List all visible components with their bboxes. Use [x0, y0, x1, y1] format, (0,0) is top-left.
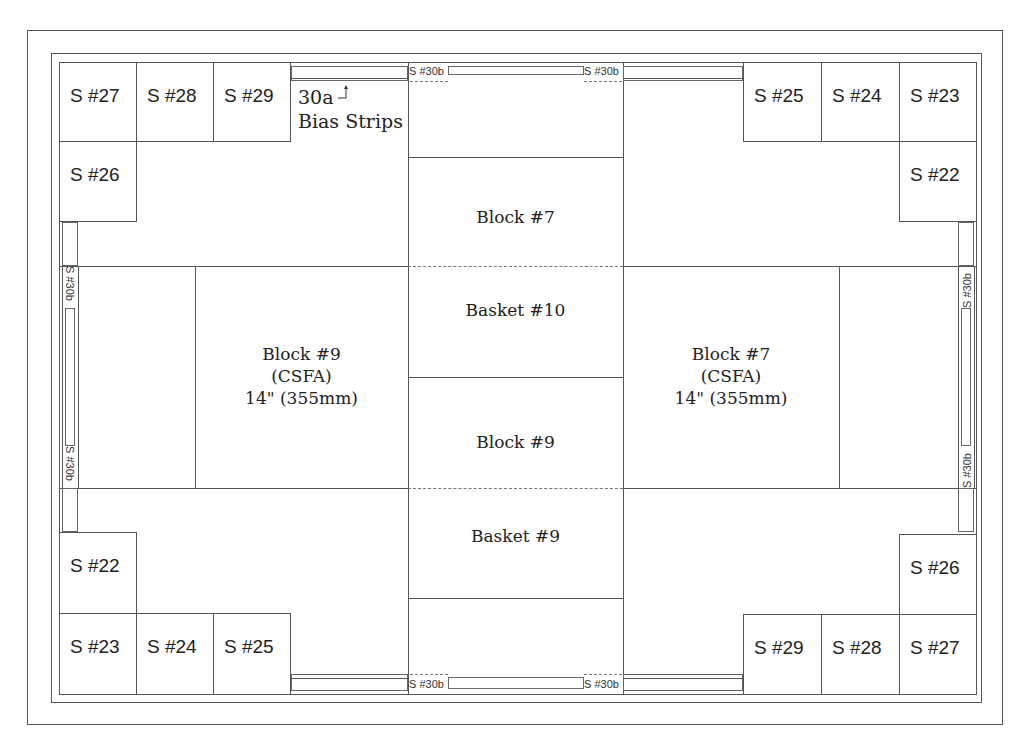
center-block-label-4: Basket #9	[408, 525, 623, 547]
mid-band-bottom-center-dashed	[408, 488, 623, 489]
square-label: S #25	[754, 85, 804, 107]
left-big-block-label: Block #9 (CSFA) 14" (355mm)	[195, 343, 408, 409]
mid-band-bottom-left	[59, 488, 408, 489]
right-strip-top-segment	[958, 222, 974, 266]
square-top-right-below: S #22	[899, 141, 977, 222]
square-label: S #29	[754, 637, 804, 659]
strip-label-bottom-2: S #30b	[584, 678, 619, 690]
bottom-left-strip-inner-line	[291, 678, 408, 679]
center-block-label-1: Block #7	[408, 206, 623, 228]
strip-label-left-2: S #30b	[64, 446, 76, 481]
square-bottom-left-3: S #25	[213, 613, 291, 695]
square-bottom-right-2: S #28	[821, 614, 900, 695]
annotation-text: Bias Strips	[298, 110, 403, 132]
square-label: S #27	[910, 637, 960, 659]
square-bottom-right-3: S #27	[899, 614, 977, 695]
left-strip-bottom-segment	[62, 488, 78, 532]
square-top-right-1: S #25	[743, 62, 822, 142]
square-top-left-2: S #28	[136, 62, 214, 142]
square-top-right-3: S #23	[899, 62, 977, 142]
bottom-right-strip-outer	[623, 674, 743, 691]
left-big-block-title: Block #9	[195, 343, 408, 365]
square-top-left-3: S #29	[213, 62, 291, 142]
left-big-block-subtitle: (CSFA)	[195, 365, 408, 387]
mid-band-top-center-dashed	[408, 266, 623, 267]
center-line-1	[408, 157, 623, 158]
square-bottom-left-2: S #24	[136, 613, 214, 695]
top-center-dash-left	[410, 81, 448, 82]
square-label: S #24	[147, 636, 197, 658]
strip-label-top-1: S #30b	[409, 65, 444, 77]
left-strip-top-segment	[62, 222, 78, 266]
top-left-strip-inner-line	[291, 78, 408, 79]
annotation-arrow-icon	[338, 84, 350, 98]
right-strip-outer-line	[974, 266, 975, 488]
right-big-block-size: 14" (355mm)	[623, 387, 839, 409]
bottom-left-strip-outer	[291, 674, 408, 691]
right-big-block-edge	[839, 266, 840, 488]
left-big-block-size: 14" (355mm)	[195, 387, 408, 409]
right-strip-middle-segment	[961, 308, 971, 446]
square-label: S #27	[70, 85, 120, 107]
strip-label-top-2: S #30b	[584, 65, 619, 77]
right-strip-bottom-segment	[958, 488, 974, 532]
top-center-dash-right	[584, 81, 622, 82]
right-big-block-subtitle: (CSFA)	[623, 365, 839, 387]
square-label: S #26	[70, 164, 120, 186]
strip-label-right-1: S #30b	[961, 273, 973, 308]
mid-band-bottom-right	[623, 488, 977, 489]
left-strip-inner-line	[78, 266, 79, 488]
center-line-2	[408, 377, 623, 378]
square-top-left-1: S #27	[59, 62, 137, 142]
square-label: S #28	[147, 85, 197, 107]
left-strip-middle-segment	[65, 308, 75, 446]
center-line-3	[408, 598, 623, 599]
right-strip-inner-line	[958, 266, 959, 488]
center-block-label-2: Basket #10	[408, 299, 623, 321]
right-big-block-label: Block #7 (CSFA) 14" (355mm)	[623, 343, 839, 409]
annotation-code: 30a	[298, 86, 334, 108]
strip-label-left-1: S #30b	[64, 266, 76, 301]
square-bottom-right-above: S #26	[899, 534, 977, 615]
mid-band-top-right	[623, 266, 977, 267]
strip-label-right-2: S #30b	[961, 453, 973, 488]
square-label: S #29	[224, 85, 274, 107]
bottom-center-dash-right	[584, 674, 622, 675]
square-label: S #22	[910, 164, 960, 186]
square-label: S #28	[832, 637, 882, 659]
square-label: S #26	[910, 557, 960, 579]
square-label: S #22	[70, 555, 120, 577]
square-top-left-below: S #26	[59, 141, 137, 222]
center-block-label-3: Block #9	[408, 431, 623, 453]
square-bottom-left-1: S #23	[59, 613, 137, 695]
square-label: S #23	[70, 636, 120, 658]
square-label: S #23	[910, 85, 960, 107]
square-label: S #24	[832, 85, 882, 107]
bottom-center-strip	[448, 677, 584, 689]
square-bottom-left-above: S #22	[59, 532, 137, 614]
left-strip-outer-line	[62, 266, 63, 488]
square-top-right-2: S #24	[821, 62, 900, 142]
square-bottom-right-1: S #29	[743, 614, 822, 695]
top-center-strip	[448, 66, 584, 75]
right-big-block-title: Block #7	[623, 343, 839, 365]
square-label: S #25	[224, 636, 274, 658]
bottom-center-dash-left	[410, 674, 448, 675]
top-right-strip-inner-line	[623, 78, 743, 79]
bottom-right-strip-inner-line	[623, 678, 743, 679]
mid-band-top-left	[59, 266, 408, 267]
strip-label-bottom-1: S #30b	[409, 678, 444, 690]
